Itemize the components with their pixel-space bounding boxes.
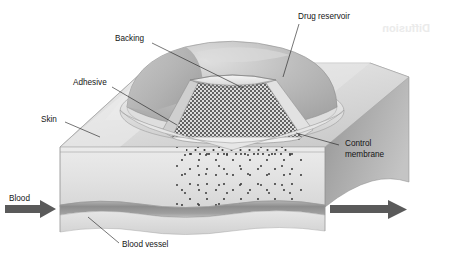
label-blood: Blood — [9, 194, 30, 203]
label-control-membrane-line1: Control — [345, 139, 372, 148]
label-backing: Backing — [115, 34, 145, 43]
ghost-text: Diffusion — [382, 22, 430, 34]
label-blood-vessel: Blood vessel — [122, 240, 169, 249]
label-drug-reservoir: Drug reservoir — [298, 12, 350, 21]
diagram-canvas: Diffusion — [0, 0, 459, 262]
blood-outflow-arrow — [330, 200, 407, 219]
diffusing-drug-particles — [176, 147, 302, 209]
label-control-membrane-line2: membrane — [345, 150, 385, 159]
label-skin: Skin — [41, 115, 57, 124]
transdermal-patch — [120, 41, 344, 150]
transdermal-patch-diagram: Diffusion — [0, 0, 459, 262]
ghost-bleedthrough-text: Diffusion — [382, 22, 430, 34]
label-adhesive: Adhesive — [73, 78, 107, 87]
